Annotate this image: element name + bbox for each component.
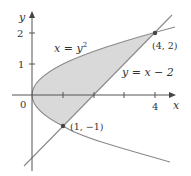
y-axis-arrow-icon bbox=[29, 11, 35, 18]
point-4-2-label: (4, 2) bbox=[152, 40, 178, 51]
origin-label: 0 bbox=[20, 99, 26, 110]
x-axis-arrow-icon bbox=[169, 92, 176, 98]
point-1-neg1 bbox=[61, 124, 65, 128]
point-1-neg1-label: (1, −1) bbox=[70, 121, 104, 132]
diagram-svg: y 2 1 0 4 x x = y2 y = x − 2 (4, 2) (1, … bbox=[0, 0, 191, 176]
point-4-2 bbox=[153, 31, 157, 35]
region-diagram: y 2 1 0 4 x x = y2 y = x − 2 (4, 2) (1, … bbox=[0, 0, 191, 176]
line-label: y = x − 2 bbox=[121, 66, 174, 79]
parabola-label: x = y2 bbox=[54, 41, 87, 55]
x-axis-label: x bbox=[173, 99, 180, 112]
y-tick-1-label: 1 bbox=[18, 59, 24, 70]
shaded-region bbox=[32, 33, 155, 126]
y-axis-label: y bbox=[18, 11, 26, 24]
y-tick-2-label: 2 bbox=[17, 28, 23, 39]
x-tick-4-label: 4 bbox=[152, 101, 158, 112]
